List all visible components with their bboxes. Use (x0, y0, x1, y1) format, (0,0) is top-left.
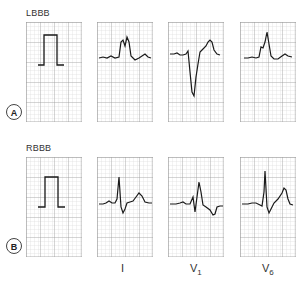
ecg-strip-rbbb-lead-v1 (168, 157, 224, 257)
lead-label-v1: V1 (190, 262, 202, 277)
ecg-strip-rbbb-lead-v6 (240, 157, 296, 257)
panel-marker-a: A (6, 104, 22, 120)
ecg-strip-lbbb-lead-v6 (240, 22, 296, 122)
ecg-strip-lbbb-lead-v1 (168, 22, 224, 122)
lead-label-i: I (121, 262, 124, 274)
lead-label-v1-sub: 1 (197, 268, 201, 277)
row-title-lbbb: LBBB (26, 8, 50, 18)
lead-label-i-text: I (121, 262, 124, 274)
row-title-rbbb: RBBB (26, 143, 51, 153)
ecg-strip-lbbb-lead-i (97, 22, 153, 122)
ecg-strip-lbbb-calibration (26, 22, 82, 122)
lead-label-v6: V6 (262, 262, 274, 277)
lead-label-v6-sub: 6 (269, 268, 273, 277)
panel-marker-b: B (6, 238, 22, 254)
ecg-strip-rbbb-lead-i (97, 157, 153, 257)
ecg-strip-rbbb-calibration (26, 157, 82, 257)
